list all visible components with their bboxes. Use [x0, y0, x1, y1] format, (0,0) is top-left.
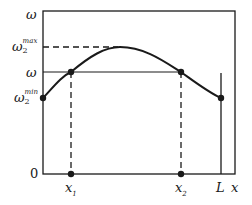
omega-min-indices: min2: [25, 92, 41, 106]
omega-min-label: ωmin2: [14, 91, 41, 106]
x2-axis-point: [178, 171, 184, 177]
x2-sub: 2: [182, 190, 186, 198]
diagram-figure: ω ωmax2 ω ωmin2 0 x1 x2 L x: [0, 0, 252, 205]
omega-min-base: ω: [14, 90, 25, 105]
x1-axis-point: [68, 171, 74, 177]
omega-max-base: ω: [12, 39, 23, 54]
plot-frame: [43, 11, 235, 174]
omega-min-sup: min: [25, 89, 38, 96]
omega-max-indices: max2: [23, 41, 39, 55]
omega-min-point: [40, 95, 46, 101]
omega-min-sub: 2: [25, 98, 30, 106]
omega-max-sup: max: [23, 38, 38, 45]
x2-label: x2: [175, 181, 187, 198]
x2-omega-point: [178, 69, 184, 75]
x-axis-label: x: [231, 181, 238, 194]
omega-max-sub: 2: [23, 47, 28, 55]
origin-label: 0: [30, 167, 38, 180]
x1-omega-point: [68, 69, 74, 75]
y-axis-top-label: ω: [26, 8, 37, 21]
L-label: L: [216, 181, 225, 194]
L-end-point: [218, 95, 224, 101]
omega-mid-label: ω: [26, 66, 37, 79]
omega-max-label: ωmax2: [12, 40, 39, 55]
x1-sub: 1: [72, 190, 76, 198]
x1-label: x1: [65, 181, 77, 198]
